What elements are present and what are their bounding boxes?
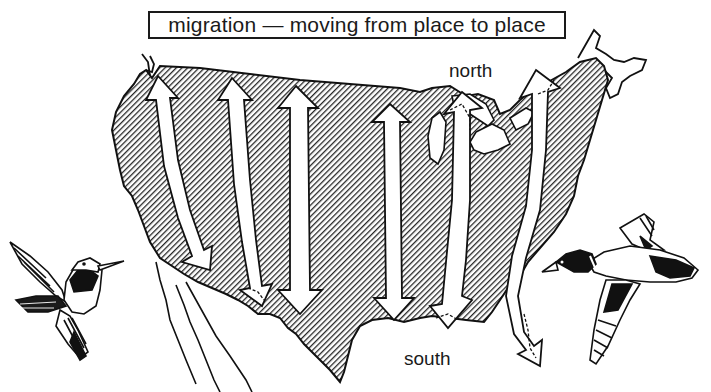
label-south: south — [404, 348, 450, 370]
mallard-duck-illustration — [542, 214, 698, 364]
hummingbird-illustration — [10, 242, 124, 360]
label-north: north — [449, 60, 492, 82]
diagram-title: migration — moving from place to place — [148, 11, 566, 39]
migration-scene — [0, 0, 711, 392]
